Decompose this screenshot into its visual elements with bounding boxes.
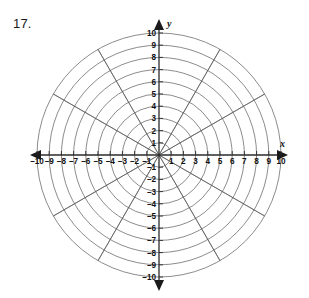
y-tick-label-5: 5 — [151, 90, 156, 99]
x-tick-label-7: 7 — [242, 157, 247, 166]
y-tick-label--5: –5 — [147, 212, 157, 221]
y-tick-label-2: 2 — [151, 127, 156, 136]
x-tick-label-2: 2 — [181, 157, 186, 166]
y-tick-label-3: 3 — [151, 114, 156, 123]
x-tick-label--8: –8 — [57, 157, 67, 166]
x-tick-label--10: –10 — [30, 157, 44, 166]
y-tick-label-8: 8 — [151, 53, 156, 62]
y-axis-label: y — [166, 18, 172, 29]
x-tick-label-8: 8 — [254, 157, 259, 166]
axes-lines — [30, 19, 288, 291]
x-tick-label-4: 4 — [206, 157, 211, 166]
x-tick-label--6: –6 — [81, 157, 91, 166]
x-tick-label-3: 3 — [193, 157, 198, 166]
y-tick-label--9: –9 — [147, 261, 157, 270]
y-tick-label--8: –8 — [147, 249, 157, 258]
y-tick-label--4: –4 — [147, 200, 157, 209]
x-tick-label--7: –7 — [69, 157, 79, 166]
y-tick-label--7: –7 — [147, 236, 157, 245]
x-tick-label-10: 10 — [276, 157, 286, 166]
y-tick-label-6: 6 — [151, 78, 156, 87]
x-tick-label--5: –5 — [93, 157, 103, 166]
y-tick-label--1: –1 — [147, 163, 157, 172]
x-axis-label: x — [279, 138, 285, 149]
x-tick-label-6: 6 — [230, 157, 235, 166]
polar-coordinate-grid: –10–9–8–7–6–5–4–3–2–112345678910 –10–9–8… — [0, 0, 309, 298]
polar-grid-worksheet-figure: 17. –10–9–8–7–6–5–4–3–2–112345678910 –10… — [0, 0, 309, 298]
x-tick-label--3: –3 — [118, 157, 128, 166]
x-tick-label-1: 1 — [169, 157, 174, 166]
y-tick-label-9: 9 — [151, 41, 156, 50]
y-tick-label--6: –6 — [147, 224, 157, 233]
x-axis-tick-labels: –10–9–8–7–6–5–4–3–2–112345678910 — [30, 157, 286, 166]
x-tick-label--4: –4 — [106, 157, 116, 166]
y-tick-label-1: 1 — [151, 139, 156, 148]
x-tick-label-5: 5 — [218, 157, 223, 166]
y-tick-label-7: 7 — [151, 66, 156, 75]
y-tick-label--10: –10 — [142, 273, 156, 282]
y-tick-label-4: 4 — [151, 102, 156, 111]
x-tick-label--9: –9 — [45, 157, 55, 166]
y-tick-label--3: –3 — [147, 188, 157, 197]
x-tick-label--2: –2 — [130, 157, 140, 166]
y-tick-label-10: 10 — [147, 29, 157, 38]
x-tick-label-9: 9 — [267, 157, 272, 166]
y-tick-label--2: –2 — [147, 175, 157, 184]
